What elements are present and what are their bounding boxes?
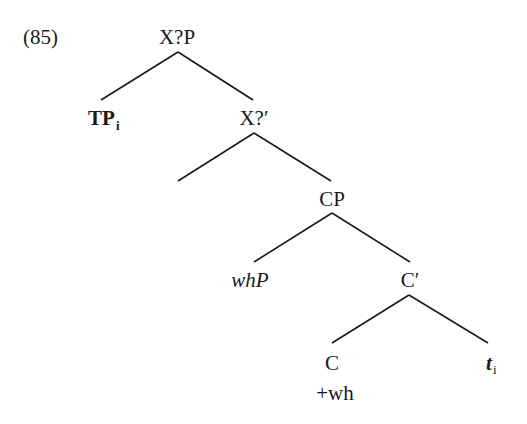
node-trace: t i [486,351,497,377]
node-whp: whP [231,268,269,292]
example-number: (85) [23,25,58,49]
node-x-bar: X?′ [239,106,268,130]
node-c-bar: C′ [401,268,420,292]
edge-cbar-to-c [332,295,409,343]
node-trace-label: t [486,351,493,375]
node-tp-label: TP [88,106,115,130]
edge-xbar-to-cp [254,133,331,181]
node-c-label: C [325,351,339,375]
node-tp-subscript: i [116,118,120,133]
node-cp: CP [319,187,345,211]
edge-root-to-xbar [178,52,253,100]
edge-cp-to-whp [254,213,332,262]
edge-cbar-to-trace [409,295,488,343]
node-c-feature: +wh [316,381,354,405]
node-root-xp: X?P [159,25,195,49]
node-c-head: C +wh [316,351,354,405]
syntax-tree-diagram: (85) X?P TP i X?′ CP whP C′ C +wh t i [0,0,527,424]
edge-xbar-to-empty [178,133,254,181]
edge-cp-to-cbar [332,213,410,262]
node-trace-subscript: i [493,362,497,377]
node-tp-i: TP i [88,106,120,133]
edge-root-to-tp [101,52,178,100]
